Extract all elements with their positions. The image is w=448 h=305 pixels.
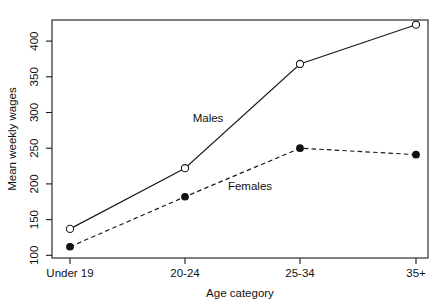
y-axis-title: Mean weekly wages xyxy=(6,87,18,191)
data-point-females-20-24 xyxy=(182,193,189,200)
x-tick-label-35-plus: 35+ xyxy=(406,267,426,279)
y-tick-label-300: 300 xyxy=(28,103,40,122)
y-tick-label-350: 350 xyxy=(28,67,40,86)
data-point-males-20-24 xyxy=(181,165,188,172)
plot-frame xyxy=(52,20,428,258)
females-series-annotation: Females xyxy=(228,180,272,192)
chart-canvas: 100 150 200 250 300 350 400 Mean weekly … xyxy=(0,0,448,305)
y-tick-label-150: 150 xyxy=(28,210,40,229)
x-tick-label-20-24: 20-24 xyxy=(170,267,200,279)
y-tick-label-250: 250 xyxy=(28,139,40,158)
x-tick-label-under-19: Under 19 xyxy=(46,267,93,279)
y-axis-ticks xyxy=(46,41,52,255)
data-point-males-under-19 xyxy=(66,225,73,232)
females-series-line xyxy=(70,148,416,247)
y-axis-tick-labels: 100 150 200 250 300 350 400 xyxy=(28,32,40,265)
data-point-females-35- xyxy=(413,151,420,158)
x-axis-ticks xyxy=(70,258,416,264)
y-tick-label-200: 200 xyxy=(28,174,40,193)
wage-by-age-line-chart: 100 150 200 250 300 350 400 Mean weekly … xyxy=(0,0,448,305)
males-series-markers xyxy=(66,21,419,232)
x-axis-title: Age category xyxy=(206,287,274,299)
females-series-markers xyxy=(67,145,420,250)
males-series-annotation: Males xyxy=(193,112,224,124)
y-tick-label-400: 400 xyxy=(28,32,40,51)
x-axis-tick-labels: Under 19 20-24 25-34 35+ xyxy=(46,267,426,279)
data-point-females-under-19 xyxy=(67,243,74,250)
males-series-line xyxy=(70,25,416,229)
y-tick-label-100: 100 xyxy=(28,246,40,265)
data-point-males-35- xyxy=(412,21,419,28)
data-point-females-25-34 xyxy=(297,145,304,152)
x-tick-label-25-34: 25-34 xyxy=(285,267,315,279)
data-point-males-25-34 xyxy=(296,60,303,67)
